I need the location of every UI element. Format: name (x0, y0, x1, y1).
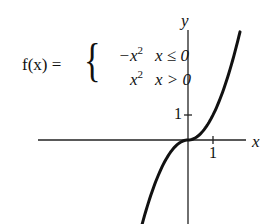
plot-area (0, 0, 275, 224)
case-2-condition: x > 0 (155, 70, 191, 90)
x-axis-label: x (252, 133, 260, 150)
brace-icon: { (84, 38, 101, 84)
case-row-2: x2x > 0 (101, 68, 191, 90)
case-2-expression: x2 (101, 68, 143, 90)
y-axis-label: y (181, 12, 189, 29)
case-1-expression: −x2 (101, 44, 143, 66)
case-1-condition: x ≤ 0 (155, 46, 189, 66)
case-row-1: −x2x ≤ 0 (101, 44, 189, 66)
y-tick-label: 1 (174, 106, 182, 122)
chart-figure: y x 1 1 f(x) = { −x2x ≤ 0 x2x > 0 (0, 0, 275, 224)
x-tick-label: 1 (209, 145, 217, 161)
formula-lhs: f(x) = (22, 55, 61, 75)
